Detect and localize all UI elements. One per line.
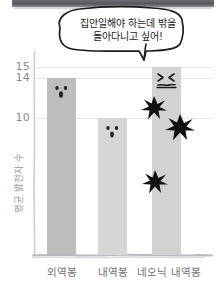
speech-bubble-text: 집안일해야 하는데 밖을 돌아다니고 싶어! — [48, 8, 208, 52]
chart-figure: 15 14 10 평균 밝전자 수 — [0, 0, 216, 293]
speech-bubble-line-1: 집안일해야 하는데 밖을 — [80, 18, 176, 30]
speech-bubble-line-2: 돌아다니고 싶어! — [93, 31, 163, 43]
speech-bubble: 집안일해야 하는데 밖을 돌아다니고 싶어! — [48, 8, 208, 56]
plot-area: 15 14 10 평균 밝전자 수 — [0, 0, 216, 293]
